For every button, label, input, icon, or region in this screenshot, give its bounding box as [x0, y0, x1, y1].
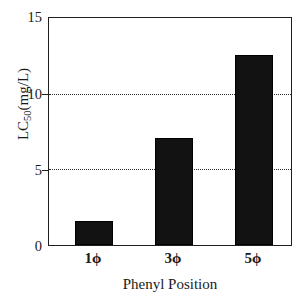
plot-inner	[49, 18, 291, 245]
y-tick-label-0: 0	[0, 239, 42, 254]
chart-figure: 15 10 5 0 LC50(mg/L) 1ϕ 3ϕ 5ϕ Phenyl Pos…	[0, 0, 307, 305]
bar-3phi	[155, 138, 193, 245]
y-tick-label-15: 15	[0, 10, 42, 25]
y-axis-title-base: LC	[15, 121, 31, 140]
x-tick-label-1phi: 1ϕ	[63, 250, 123, 266]
y-axis-title-subscript: 50	[22, 110, 33, 121]
y-axis-title: LC50(mg/L)	[16, 34, 32, 174]
plot-area	[48, 17, 292, 246]
bar-5phi	[235, 55, 273, 245]
bar-1phi	[75, 221, 113, 245]
x-axis-title: Phenyl Position	[48, 276, 292, 292]
x-tick-label-5phi: 5ϕ	[223, 250, 283, 266]
x-tick-label-3phi: 3ϕ	[143, 250, 203, 266]
y-axis-title-tail: (mg/L)	[15, 68, 31, 111]
